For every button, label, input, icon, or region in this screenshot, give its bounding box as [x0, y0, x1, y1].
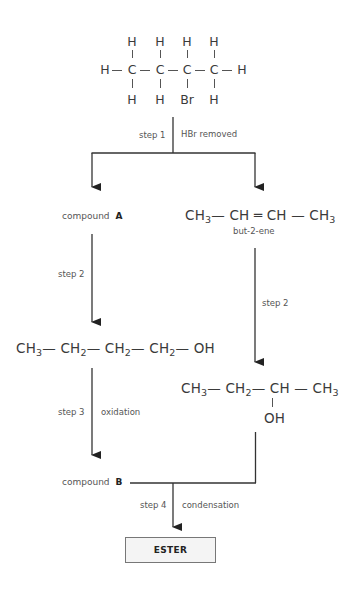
ester-product-box: ESTER — [125, 537, 216, 563]
atom-h-top-3: H — [180, 35, 194, 49]
step3-condition: oxidation — [101, 407, 140, 418]
oh-bond — [272, 398, 273, 407]
atom-h-left: H — [98, 63, 112, 77]
butene-formula: CH3— CH ═ CH — CH3 — [185, 207, 336, 223]
left-step2-label: step 2 — [58, 269, 85, 280]
compound-b-prefix: compound — [62, 477, 110, 487]
compound-a-letter: A — [115, 211, 122, 221]
butene-name: but-2-ene — [233, 226, 275, 237]
bond — [195, 70, 205, 71]
bond — [214, 79, 215, 88]
bond — [132, 79, 133, 88]
compound-b-letter: B — [115, 477, 122, 487]
bond — [222, 70, 232, 71]
flow-connectors — [0, 0, 344, 593]
butanol-formula: CH3— CH2— CH2— CH2— OH — [16, 340, 215, 356]
atom-c-2: C — [153, 63, 167, 77]
step4-label: step 4 — [140, 500, 167, 511]
formula-part: — CH — [131, 340, 169, 356]
atom-c-4: C — [207, 63, 221, 77]
formula-subscript: 3 — [333, 387, 339, 398]
atom-h-top-2: H — [153, 35, 167, 49]
ester-label: ESTER — [154, 545, 187, 555]
step1-label: step 1 — [139, 130, 166, 141]
step3-label: step 3 — [58, 407, 85, 418]
formula-part: — OH — [176, 340, 215, 356]
formula-part: — CH — [42, 340, 80, 356]
bond — [187, 79, 188, 88]
bond — [112, 70, 122, 71]
bond — [160, 79, 161, 88]
formula-part: — CH ═ CH — CH — [211, 207, 329, 223]
atom-c-1: C — [125, 63, 139, 77]
atom-br: Br — [178, 93, 196, 107]
step1-condition: HBr removed — [181, 129, 237, 140]
atom-h-right: H — [235, 63, 249, 77]
formula-part: CH — [16, 340, 36, 356]
bond — [140, 70, 150, 71]
bond — [132, 50, 133, 58]
atom-h-bottom-2: H — [153, 93, 167, 107]
formula-part: CH — [181, 380, 201, 396]
formula-part: — CH — [207, 380, 245, 396]
atom-h-bottom-4: H — [207, 93, 221, 107]
formula-part: — CH — [87, 340, 125, 356]
butan2ol-oh: OH — [264, 410, 285, 426]
bond — [187, 50, 188, 58]
compound-a-label: compound A — [62, 211, 122, 222]
formula-subscript: 3 — [329, 214, 335, 225]
bond — [160, 50, 161, 58]
compound-b-label: compound B — [62, 477, 122, 488]
step4-condition: condensation — [182, 500, 239, 511]
atom-h-bottom-1: H — [125, 93, 139, 107]
compound-a-prefix: compound — [62, 211, 110, 221]
bond — [168, 70, 178, 71]
atom-h-top-1: H — [125, 35, 139, 49]
formula-part: — CH — CH — [252, 380, 333, 396]
right-step2-label: step 2 — [262, 298, 289, 309]
formula-part: CH — [185, 207, 205, 223]
atom-c-3: C — [180, 63, 194, 77]
butan2ol-formula: CH3— CH2— CH — CH3 — [181, 380, 339, 396]
bond — [214, 50, 215, 58]
atom-h-top-4: H — [207, 35, 221, 49]
